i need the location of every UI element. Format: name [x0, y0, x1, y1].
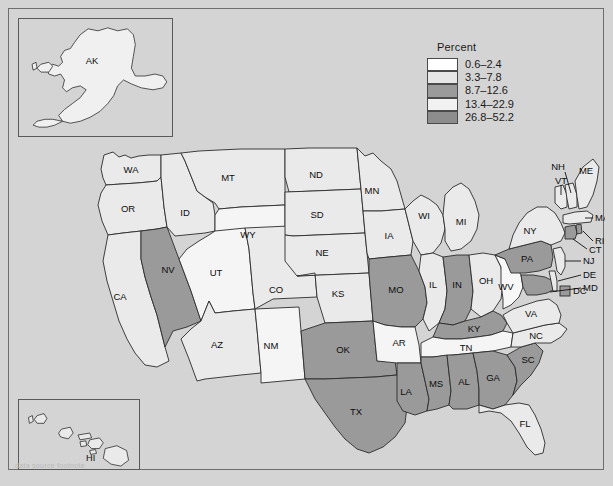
state-WA[interactable] [101, 152, 161, 185]
legend-row-1[interactable]: 3.3–7.8 [427, 71, 547, 84]
alaska-aleutians [33, 119, 62, 127]
state-AL[interactable] [447, 353, 479, 409]
hawaii-kauai[interactable] [34, 414, 47, 424]
legend-rows: 0.6–2.43.3–7.88.7–12.613.4–22.926.8–52.2 [427, 58, 547, 124]
hawaii-inset: HI [18, 399, 140, 470]
leader-CT [573, 239, 587, 249]
state-AK[interactable] [47, 28, 167, 123]
label-VT: VT [555, 175, 567, 186]
legend-row-3[interactable]: 13.4–22.9 [427, 98, 547, 111]
state-MI[interactable] [443, 183, 479, 251]
label-NJ: NJ [583, 255, 595, 266]
figure-caption: data source footnote [15, 462, 85, 469]
map-figure: WA OR CA NV ID MT WY UT AZ NM CO ND SD N… [0, 0, 613, 486]
legend-swatch-1 [427, 71, 458, 84]
legend-row-4[interactable]: 26.8–52.2 [427, 111, 547, 124]
label-MD: MD [583, 282, 598, 293]
state-FL[interactable] [479, 403, 545, 455]
state-DC[interactable] [560, 286, 570, 296]
legend-swatch-0 [427, 58, 458, 71]
leader-RI [583, 231, 593, 241]
state-OR[interactable] [98, 177, 167, 235]
label-CT: CT [589, 244, 602, 255]
legend-swatch-2 [427, 84, 458, 97]
hawaii-kahoolawe[interactable] [90, 450, 97, 455]
legend: Percent 0.6–2.43.3–7.88.7–12.613.4–22.92… [427, 41, 547, 124]
hawaii-maui[interactable] [88, 438, 104, 449]
legend-row-2[interactable]: 8.7–12.6 [427, 84, 547, 97]
state-AR[interactable] [373, 321, 421, 363]
state-CT[interactable] [565, 225, 577, 239]
legend-label-4: 26.8–52.2 [465, 111, 514, 124]
hawaii-lanai[interactable] [80, 441, 87, 447]
state-RI[interactable] [576, 224, 582, 234]
state-IA[interactable] [363, 209, 413, 259]
state-MD[interactable] [521, 275, 555, 295]
label-NH: NH [551, 161, 565, 172]
legend-title: Percent [437, 41, 547, 53]
label-MA: MA [595, 212, 605, 223]
state-ME[interactable] [575, 159, 599, 209]
label-RI: RI [595, 235, 605, 246]
alaska-shape-svg: AK [19, 19, 172, 136]
hawaii-bigisland[interactable] [103, 446, 128, 466]
alaska-island-b [32, 62, 37, 70]
figure-frame: WA OR CA NV ID MT WY UT AZ NM CO ND SD N… [8, 8, 604, 470]
state-MN[interactable] [357, 148, 405, 211]
label-DE: DE [583, 269, 596, 280]
state-ND[interactable] [285, 148, 361, 192]
state-MA[interactable] [563, 211, 593, 224]
hawaii-shape-svg: HI [19, 400, 139, 469]
legend-label-1: 3.3–7.8 [465, 71, 502, 84]
state-OH[interactable] [469, 253, 503, 317]
hawaii-molokai[interactable] [78, 433, 92, 440]
state-TX[interactable] [305, 375, 407, 453]
legend-swatch-3 [427, 98, 458, 111]
hawaii-oahu[interactable] [59, 427, 74, 439]
legend-label-2: 8.7–12.6 [465, 84, 508, 97]
label-DC: DC [573, 285, 587, 296]
alaska-inset: AK [18, 18, 173, 137]
state-SD[interactable] [285, 189, 365, 236]
state-NM[interactable] [255, 307, 305, 383]
legend-swatch-4 [427, 111, 458, 124]
legend-label-3: 13.4–22.9 [465, 98, 514, 111]
hawaii-niihau[interactable] [28, 416, 33, 424]
leader-DE [558, 275, 581, 281]
state-MO[interactable] [369, 255, 427, 327]
legend-row-0[interactable]: 0.6–2.4 [427, 58, 547, 71]
legend-label-0: 0.6–2.4 [465, 58, 502, 71]
state-NE[interactable] [285, 233, 369, 276]
